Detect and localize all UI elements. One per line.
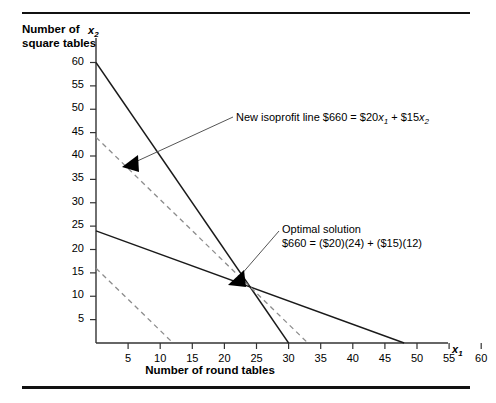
y-tick-label: 40	[58, 148, 84, 160]
x-tick-label: 15	[181, 352, 203, 364]
x-tick-label: 25	[246, 352, 268, 364]
leader-line-optimal	[240, 231, 279, 276]
arrowhead-isoprofit	[122, 155, 139, 172]
y-tick-label: 35	[58, 171, 84, 183]
x-tick-label: 20	[213, 352, 235, 364]
x-tick-label: 5	[117, 352, 139, 364]
y-tick-label: 50	[58, 101, 84, 113]
y-tick-label: 20	[58, 242, 84, 254]
y-tick-label: 25	[58, 218, 84, 230]
data-lines-group	[96, 63, 404, 344]
y-tick-label: 15	[58, 265, 84, 277]
series-constraint-2	[96, 231, 404, 343]
series-constraint-1	[96, 63, 289, 344]
x-tick-label: 35	[310, 352, 332, 364]
x-tick-label: 30	[278, 352, 300, 364]
y-tick-label: 10	[58, 288, 84, 300]
y-tick-label: 5	[58, 312, 84, 324]
x-tick-label: 50	[406, 352, 428, 364]
axes-group	[96, 38, 448, 343]
leader-line-isoprofit	[133, 117, 233, 163]
y-tick-label: 55	[58, 78, 84, 90]
y-tick-label: 45	[58, 125, 84, 137]
arrowhead-optimal	[228, 270, 246, 287]
x-tick-label: 60	[470, 352, 492, 364]
x-tick-label: 55	[438, 352, 460, 364]
x-tick-label: 45	[374, 352, 396, 364]
series-isoprofit-lower	[96, 268, 173, 343]
callout-leaders-group	[122, 117, 279, 287]
y-tick-label: 60	[58, 55, 84, 67]
tick-marks-group	[90, 63, 481, 350]
y-tick-label: 30	[58, 195, 84, 207]
x-tick-label: 10	[149, 352, 171, 364]
x-tick-label: 40	[342, 352, 364, 364]
